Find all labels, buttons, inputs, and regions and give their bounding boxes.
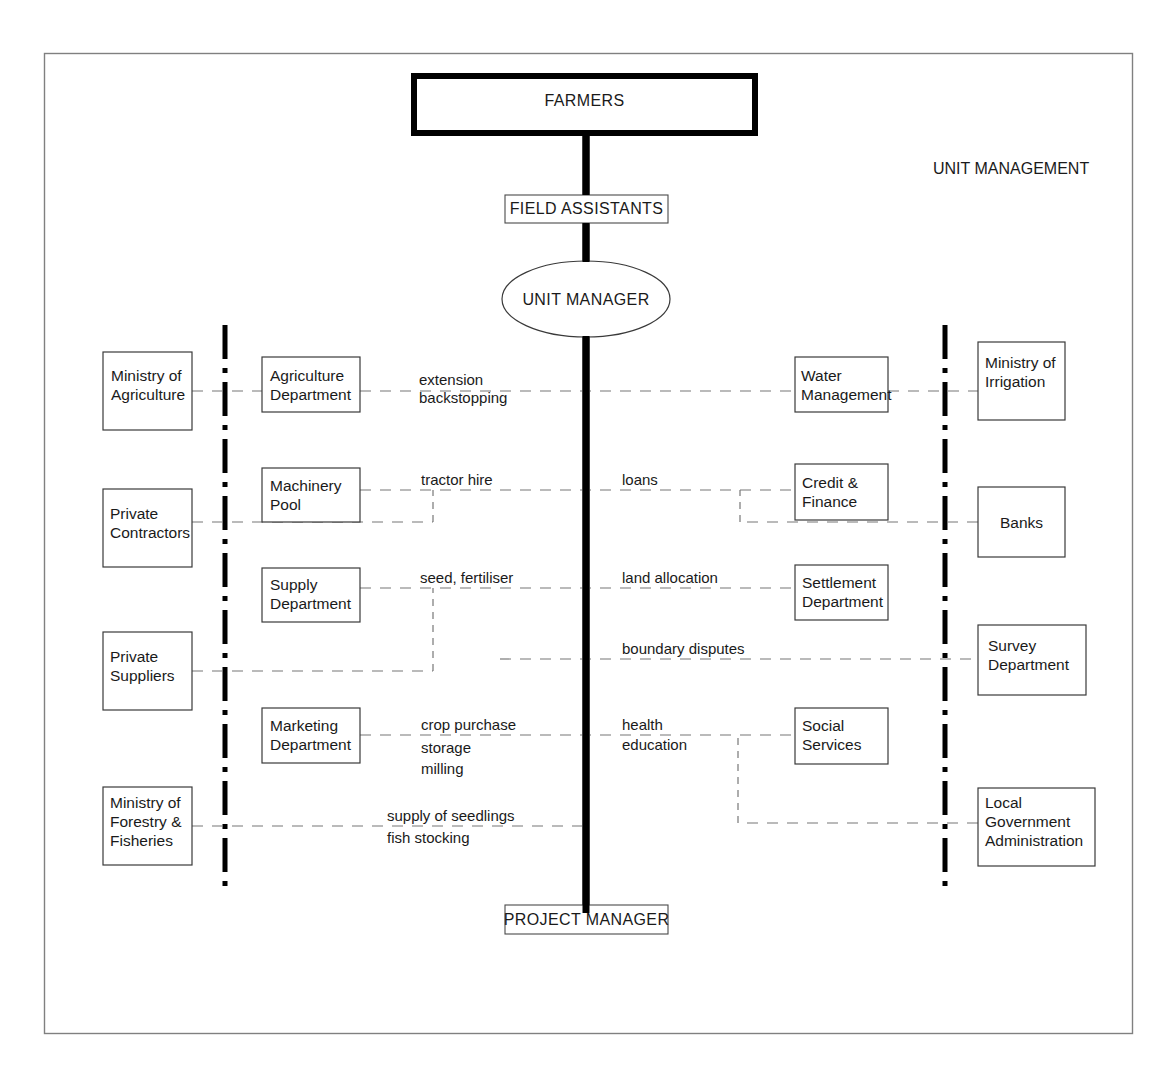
edge-label-crop-purchase: crop purchase — [421, 716, 516, 733]
node-credit-finance[interactable]: Credit & Finance — [795, 464, 888, 520]
node-survey-department-line-2: Department — [988, 656, 1070, 673]
node-credit-finance-line-1: Credit & — [802, 474, 859, 491]
edge-label-boundary-disputes: boundary disputes — [622, 640, 745, 657]
node-unit-manager[interactable]: UNIT MANAGER — [502, 261, 670, 337]
node-survey-department-line-1: Survey — [988, 637, 1036, 654]
node-ministry-of-irrigation-line-1: Ministry of — [985, 354, 1056, 371]
node-machinery-pool[interactable]: Machinery Pool — [262, 468, 360, 522]
node-ministry-of-irrigation[interactable]: Ministry of Irrigation — [978, 342, 1065, 420]
edge-label-fish-stocking: fish stocking — [387, 829, 470, 846]
node-ministry-of-agriculture[interactable]: Ministry of Agriculture — [103, 352, 192, 430]
node-supply-department-line-1: Supply — [270, 576, 318, 593]
node-settlement-department[interactable]: Settlement Department — [795, 565, 888, 620]
node-survey-department[interactable]: Survey Department — [978, 625, 1086, 695]
node-private-contractors-line-2: Contractors — [110, 524, 190, 541]
node-credit-finance-line-2: Finance — [802, 493, 857, 510]
node-social-services-line-2: Services — [802, 736, 862, 753]
node-agriculture-department-line-2: Department — [270, 386, 352, 403]
node-supply-department[interactable]: Supply Department — [262, 568, 360, 622]
node-field-assistants-label: FIELD ASSISTANTS — [510, 200, 664, 217]
node-banks[interactable]: Banks — [978, 487, 1065, 557]
node-project-manager-label: PROJECT MANAGER — [504, 911, 670, 928]
node-social-services[interactable]: Social Services — [795, 708, 888, 764]
node-private-contractors[interactable]: Private Contractors — [103, 489, 192, 567]
edge-label-health: health — [622, 716, 663, 733]
org-chart-canvas: UNIT MANAGEMENT FARMERS FIELD ASSISTANTS… — [0, 0, 1176, 1086]
node-private-contractors-line-1: Private — [110, 505, 158, 522]
edge-label-milling: milling — [421, 760, 464, 777]
node-machinery-pool-line-1: Machinery — [270, 477, 342, 494]
node-social-services-line-1: Social — [802, 717, 844, 734]
node-local-government-administration-line-1: Local — [985, 794, 1022, 811]
edge-label-storage: storage — [421, 739, 471, 756]
node-ministry-of-forestry-fisheries-line-2: Forestry & — [110, 813, 182, 830]
unit-management-title: UNIT MANAGEMENT — [933, 160, 1089, 177]
node-ministry-of-agriculture-line-2: Agriculture — [111, 386, 185, 403]
node-farmers-label: FARMERS — [544, 92, 624, 109]
node-field-assistants[interactable]: FIELD ASSISTANTS — [505, 195, 668, 223]
node-local-government-administration-line-2: Government — [985, 813, 1071, 830]
node-farmers[interactable]: FARMERS — [414, 76, 755, 133]
node-agriculture-department[interactable]: Agriculture Department — [262, 357, 360, 412]
node-marketing-department-line-1: Marketing — [270, 717, 338, 734]
edge-label-education: education — [622, 736, 687, 753]
node-ministry-of-forestry-fisheries-line-3: Fisheries — [110, 832, 173, 849]
node-marketing-department-line-2: Department — [270, 736, 352, 753]
edge-label-land-allocation: land allocation — [622, 569, 718, 586]
node-private-suppliers-line-2: Suppliers — [110, 667, 175, 684]
edge-label-extension: extension — [419, 371, 483, 388]
node-marketing-department[interactable]: Marketing Department — [262, 708, 360, 763]
node-ministry-of-forestry-fisheries-line-1: Ministry of — [110, 794, 181, 811]
node-ministry-of-irrigation-line-2: Irrigation — [985, 373, 1045, 390]
node-private-suppliers-line-1: Private — [110, 648, 158, 665]
node-settlement-department-line-1: Settlement — [802, 574, 877, 591]
edge-label-supply-of-seedlings: supply of seedlings — [387, 807, 515, 824]
node-water-management-line-1: Water — [801, 367, 842, 384]
node-supply-department-line-2: Department — [270, 595, 352, 612]
node-ministry-of-agriculture-line-1: Ministry of — [111, 367, 182, 384]
edge-label-backstopping: backstopping — [419, 389, 507, 406]
node-agriculture-department-line-1: Agriculture — [270, 367, 344, 384]
node-settlement-department-line-2: Department — [802, 593, 884, 610]
node-banks-line-1: Banks — [1000, 514, 1043, 531]
edge-label-seed-fertiliser: seed, fertiliser — [420, 569, 513, 586]
edge-label-loans: loans — [622, 471, 658, 488]
edge-label-tractor-hire: tractor hire — [421, 471, 493, 488]
node-water-management[interactable]: Water Management — [795, 357, 892, 412]
node-local-government-administration-line-3: Administration — [985, 832, 1083, 849]
node-water-management-line-2: Management — [801, 386, 892, 403]
organization-diagram: UNIT MANAGEMENT FARMERS FIELD ASSISTANTS… — [0, 0, 1176, 1086]
node-private-suppliers[interactable]: Private Suppliers — [103, 632, 192, 710]
node-machinery-pool-line-2: Pool — [270, 496, 301, 513]
node-ministry-of-forestry-fisheries[interactable]: Ministry of Forestry & Fisheries — [103, 787, 192, 865]
node-local-government-administration[interactable]: Local Government Administration — [978, 788, 1095, 866]
node-unit-manager-label: UNIT MANAGER — [522, 291, 649, 308]
